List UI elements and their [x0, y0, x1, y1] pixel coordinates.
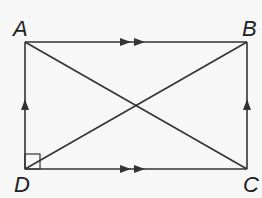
vertex-label-a: A — [13, 18, 28, 40]
arrow-ab-2-icon — [134, 38, 145, 46]
diagram-canvas — [0, 0, 262, 198]
vertex-label-b: B — [242, 18, 257, 40]
arrow-cb-icon — [243, 99, 251, 110]
arrow-dc-1-icon — [120, 165, 131, 173]
arrow-dc-2-icon — [134, 165, 145, 173]
rectangle-diagram: A B C D — [0, 0, 262, 198]
vertex-label-c: C — [243, 174, 259, 196]
arrow-ab-1-icon — [120, 38, 131, 46]
arrow-da-icon — [21, 99, 29, 110]
vertex-label-d: D — [14, 174, 30, 196]
